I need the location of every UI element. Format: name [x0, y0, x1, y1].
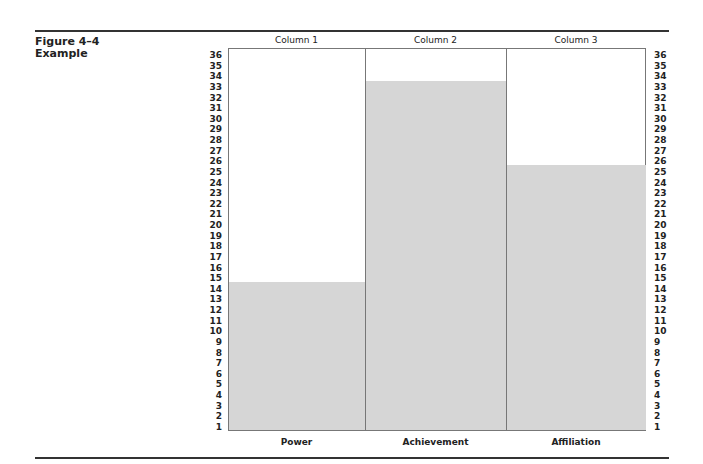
column-header-1: Column 1 — [228, 35, 365, 45]
y-tick-label: 1 — [654, 422, 674, 433]
y-tick-label: 18 — [202, 241, 222, 252]
y-tick-label: 36 — [202, 50, 222, 61]
y-tick-label: 26 — [654, 156, 674, 167]
y-tick-label: 7 — [654, 358, 674, 369]
bottom-rule — [35, 457, 669, 459]
y-tick-label: 3 — [654, 401, 674, 412]
y-tick-label: 17 — [654, 252, 674, 263]
y-tick-label: 21 — [202, 209, 222, 220]
y-tick-label: 1 — [202, 422, 222, 433]
y-tick-label: 23 — [654, 188, 674, 199]
y-tick-label: 22 — [654, 199, 674, 210]
y-tick-label: 9 — [202, 337, 222, 348]
y-tick-label: 4 — [654, 390, 674, 401]
category-label-3: Affiliation — [506, 437, 646, 447]
y-tick-label: 8 — [202, 348, 222, 359]
y-tick-label: 5 — [202, 379, 222, 390]
y-tick-label: 28 — [202, 135, 222, 146]
y-tick-label: 29 — [654, 124, 674, 135]
y-tick-label: 31 — [654, 103, 674, 114]
figure-title: Figure 4–4 Example — [35, 36, 100, 60]
column-1 — [229, 49, 366, 430]
y-tick-label: 13 — [202, 294, 222, 305]
y-tick-label: 20 — [654, 220, 674, 231]
y-tick-label: 17 — [202, 252, 222, 263]
y-tick-label: 32 — [202, 93, 222, 104]
y-tick-label: 15 — [202, 273, 222, 284]
y-tick-label: 25 — [202, 167, 222, 178]
y-tick-label: 16 — [654, 263, 674, 274]
y-tick-label: 2 — [202, 411, 222, 422]
figure-caption: Example — [35, 48, 100, 60]
column-2 — [365, 49, 507, 430]
y-tick-label: 16 — [202, 263, 222, 274]
category-label-2: Achievement — [365, 437, 506, 447]
y-tick-label: 30 — [202, 114, 222, 125]
y-tick-label: 11 — [202, 316, 222, 327]
y-tick-label: 2 — [654, 411, 674, 422]
y-tick-label: 31 — [202, 103, 222, 114]
y-tick-label: 10 — [202, 326, 222, 337]
y-tick-label: 12 — [654, 305, 674, 316]
column-header-2: Column 2 — [365, 35, 506, 45]
y-tick-label: 35 — [654, 61, 674, 72]
y-tick-label: 19 — [654, 231, 674, 242]
bar-affiliation — [507, 165, 646, 430]
y-tick-label: 34 — [654, 71, 674, 82]
y-tick-label: 6 — [654, 369, 674, 380]
y-tick-label: 26 — [202, 156, 222, 167]
y-tick-label: 13 — [654, 294, 674, 305]
column-header-3: Column 3 — [506, 35, 646, 45]
y-axis-left: 3635343332313029282726252423222120191817… — [202, 50, 222, 433]
y-tick-label: 29 — [202, 124, 222, 135]
y-tick-label: 3 — [202, 401, 222, 412]
y-tick-label: 9 — [654, 337, 674, 348]
y-tick-label: 22 — [202, 199, 222, 210]
y-tick-label: 4 — [202, 390, 222, 401]
y-tick-label: 33 — [654, 82, 674, 93]
y-tick-label: 12 — [202, 305, 222, 316]
y-tick-label: 35 — [202, 61, 222, 72]
y-tick-label: 25 — [654, 167, 674, 178]
y-tick-label: 18 — [654, 241, 674, 252]
y-tick-label: 27 — [202, 146, 222, 157]
y-tick-label: 10 — [654, 326, 674, 337]
y-tick-label: 5 — [654, 379, 674, 390]
bar-power — [229, 282, 366, 430]
y-tick-label: 20 — [202, 220, 222, 231]
y-tick-label: 6 — [202, 369, 222, 380]
y-tick-label: 28 — [654, 135, 674, 146]
y-tick-label: 11 — [654, 316, 674, 327]
bar-chart — [228, 48, 646, 431]
bar-achievement — [366, 81, 507, 430]
y-tick-label: 19 — [202, 231, 222, 242]
y-tick-label: 24 — [202, 178, 222, 189]
category-label-1: Power — [228, 437, 365, 447]
y-tick-label: 32 — [654, 93, 674, 104]
y-tick-label: 30 — [654, 114, 674, 125]
y-tick-label: 36 — [654, 50, 674, 61]
y-tick-label: 15 — [654, 273, 674, 284]
y-tick-label: 27 — [654, 146, 674, 157]
top-rule — [35, 30, 669, 32]
y-tick-label: 7 — [202, 358, 222, 369]
y-tick-label: 14 — [202, 284, 222, 295]
column-3 — [506, 49, 646, 430]
y-axis-right: 3635343332313029282726252423222120191817… — [654, 50, 674, 433]
y-tick-label: 8 — [654, 348, 674, 359]
y-tick-label: 33 — [202, 82, 222, 93]
y-tick-label: 34 — [202, 71, 222, 82]
y-tick-label: 21 — [654, 209, 674, 220]
y-tick-label: 24 — [654, 178, 674, 189]
y-tick-label: 14 — [654, 284, 674, 295]
y-tick-label: 23 — [202, 188, 222, 199]
